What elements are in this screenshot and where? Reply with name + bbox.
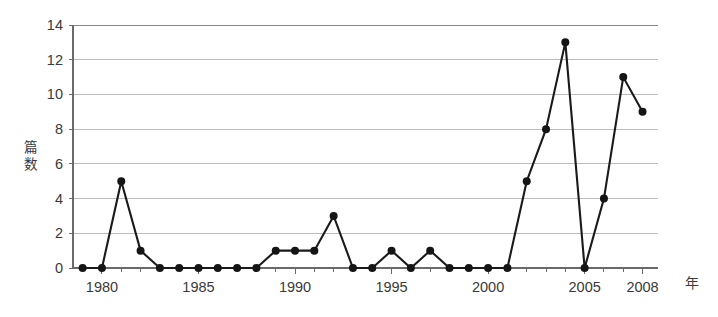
y-tick-label-14: 14 bbox=[47, 17, 63, 33]
data-point-1994 bbox=[368, 264, 376, 272]
data-point-1983 bbox=[156, 264, 164, 272]
y-axis-title: 篇数 bbox=[24, 139, 38, 172]
data-point-1987 bbox=[233, 264, 241, 272]
x-axis-unit-label: 年 bbox=[685, 275, 699, 291]
data-point-1998 bbox=[445, 264, 453, 272]
y-tick-label-8: 8 bbox=[55, 121, 63, 137]
data-point-1986 bbox=[214, 264, 222, 272]
y-tick-label-4: 4 bbox=[55, 191, 63, 207]
data-point-1992 bbox=[330, 212, 338, 220]
data-point-2004 bbox=[561, 38, 569, 46]
y-tick-label-12: 12 bbox=[47, 52, 63, 68]
chart-container: 02468101214 1980198519901995200020052008… bbox=[0, 0, 718, 317]
data-point-1988 bbox=[252, 264, 260, 272]
y-axis-title-char-1: 数 bbox=[24, 156, 38, 172]
data-point-1985 bbox=[195, 264, 203, 272]
y-tick-label-2: 2 bbox=[55, 225, 63, 241]
x-tick-label-2000: 2000 bbox=[472, 279, 504, 295]
data-point-1981 bbox=[117, 177, 125, 185]
data-point-1990 bbox=[291, 247, 299, 255]
data-point-2005 bbox=[581, 264, 589, 272]
x-tick-label-1980: 1980 bbox=[86, 279, 118, 295]
data-point-2001 bbox=[503, 264, 511, 272]
data-point-1989 bbox=[272, 247, 280, 255]
data-point-1997 bbox=[426, 247, 434, 255]
data-point-1999 bbox=[465, 264, 473, 272]
data-point-2002 bbox=[523, 177, 531, 185]
data-point-1982 bbox=[137, 247, 145, 255]
data-point-1996 bbox=[407, 264, 415, 272]
data-point-1993 bbox=[349, 264, 357, 272]
data-point-1991 bbox=[310, 247, 318, 255]
x-tick-label-2005: 2005 bbox=[569, 279, 601, 295]
x-tick-label-1985: 1985 bbox=[182, 279, 214, 295]
data-point-2007 bbox=[619, 73, 627, 81]
data-point-2003 bbox=[542, 125, 550, 133]
data-point-2006 bbox=[600, 195, 608, 203]
y-tick-label-0: 0 bbox=[55, 260, 63, 276]
line-chart: 02468101214 1980198519901995200020052008… bbox=[0, 0, 718, 317]
y-tick-label-10: 10 bbox=[47, 86, 63, 102]
x-tick-label-2008: 2008 bbox=[626, 279, 658, 295]
y-tick-label-6: 6 bbox=[55, 156, 63, 172]
x-tick-label-1990: 1990 bbox=[279, 279, 311, 295]
data-point-1995 bbox=[388, 247, 396, 255]
y-axis-title-char-0: 篇 bbox=[24, 139, 37, 155]
data-point-2008 bbox=[639, 108, 647, 116]
data-point-1979 bbox=[79, 264, 87, 272]
x-tick-label-1995: 1995 bbox=[375, 279, 407, 295]
data-point-1984 bbox=[175, 264, 183, 272]
data-point-1980 bbox=[98, 264, 106, 272]
data-point-2000 bbox=[484, 264, 492, 272]
